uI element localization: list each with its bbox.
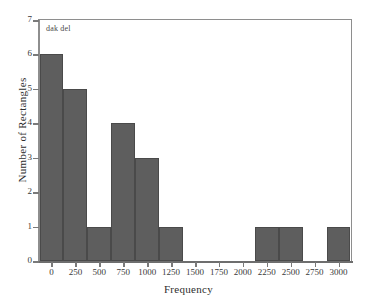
y-tick-label: 0 bbox=[28, 256, 33, 265]
bar bbox=[135, 158, 159, 261]
bar bbox=[87, 227, 111, 261]
y-tick-mark bbox=[33, 89, 39, 91]
y-tick-mark bbox=[33, 261, 39, 263]
x-tick-label: 3000 bbox=[319, 268, 359, 277]
bar bbox=[111, 123, 135, 261]
y-tick-mark bbox=[33, 227, 39, 229]
y-tick-label: 6 bbox=[28, 49, 33, 58]
x-axis-title: Frequency bbox=[0, 283, 377, 295]
bar bbox=[279, 227, 303, 261]
bar bbox=[159, 227, 183, 261]
y-tick-mark bbox=[33, 158, 39, 160]
bar-series bbox=[40, 20, 351, 261]
y-tick-mark bbox=[33, 123, 39, 125]
bar bbox=[63, 89, 87, 261]
y-tick-label: 7 bbox=[28, 15, 33, 24]
bar bbox=[255, 227, 279, 261]
y-tick-label: 4 bbox=[28, 118, 33, 127]
y-axis-title: Number of Rectangles bbox=[16, 50, 28, 210]
y-tick-label: 2 bbox=[28, 187, 33, 196]
y-tick-mark bbox=[33, 20, 39, 22]
y-tick-label: 1 bbox=[28, 222, 33, 231]
bar bbox=[40, 54, 64, 261]
y-tick-mark bbox=[33, 192, 39, 194]
y-tick-label: 5 bbox=[28, 84, 33, 93]
y-tick-mark bbox=[33, 54, 39, 56]
histogram-chart: dak del 01234567 02505007501000125015001… bbox=[0, 0, 377, 308]
y-tick-label: 3 bbox=[28, 153, 33, 162]
bar bbox=[327, 227, 351, 261]
